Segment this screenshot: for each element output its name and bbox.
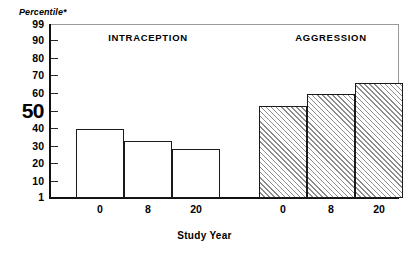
y-axis-tick-label-text: 1 <box>38 191 44 203</box>
y-axis-tick-label-text: 20 <box>32 157 44 169</box>
y-axis-tick-label: 1 <box>18 197 44 198</box>
y-axis-tick-label-text: 60 <box>32 87 44 99</box>
x-axis-tick-label: 8 <box>124 203 172 215</box>
bar <box>172 149 220 198</box>
percentile-bar-chart: Percentile* 999080706050403020101 INTRAC… <box>0 0 409 258</box>
bars-layer <box>49 24 399 198</box>
y-axis-tick-label: 90 <box>18 40 44 41</box>
bar <box>259 106 307 198</box>
y-axis-tick-label-text: 99 <box>32 18 44 30</box>
y-axis-tick-label: 40 <box>18 128 44 129</box>
y-axis-tick-label: 60 <box>18 93 44 94</box>
y-axis-tick-label: 30 <box>18 146 44 147</box>
y-axis-title: Percentile* <box>19 7 67 17</box>
y-axis-tick-label: 80 <box>18 58 44 59</box>
x-axis-tick-label: 0 <box>76 203 124 215</box>
y-axis-tick-label-text: 50 <box>22 99 44 123</box>
bar <box>76 129 124 198</box>
y-axis-tick-label-text: 90 <box>32 34 44 46</box>
y-axis-tick-label: 50 <box>18 111 44 112</box>
x-axis-tick-label: 0 <box>259 203 307 215</box>
y-axis-tick-label: 70 <box>18 75 44 76</box>
y-axis-tick-label-text: 70 <box>32 69 44 81</box>
y-axis-tick-label-text: 30 <box>32 140 44 152</box>
group-title: AGGRESSION <box>259 32 403 43</box>
x-axis-tick-label: 20 <box>172 203 220 215</box>
y-axis-tick-label-text: 10 <box>32 175 44 187</box>
y-axis-tick-label: 99 <box>18 24 44 25</box>
bar <box>124 141 172 198</box>
x-axis-tick-label: 20 <box>355 203 403 215</box>
bar <box>307 94 355 198</box>
group-title: INTRACEPTION <box>76 32 220 43</box>
x-axis-title: Study Year <box>0 230 409 241</box>
y-axis-tick-label-text: 40 <box>32 122 44 134</box>
bar <box>355 83 403 198</box>
x-axis-tick-label: 8 <box>307 203 355 215</box>
y-axis-tick-label: 10 <box>18 181 44 182</box>
y-axis-tick-label: 20 <box>18 163 44 164</box>
y-axis-tick-label-text: 80 <box>32 52 44 64</box>
